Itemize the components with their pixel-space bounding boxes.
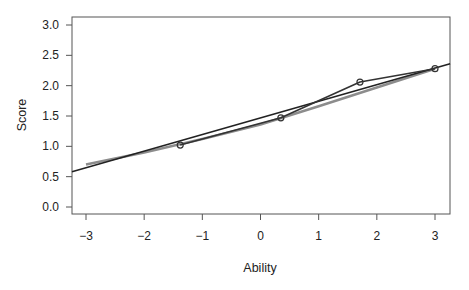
y-axis-title: Score — [15, 99, 29, 132]
y-tick-label: 2.5 — [42, 48, 59, 62]
y-tick-label: 2.0 — [42, 79, 59, 93]
y-tick-label: 1.0 — [42, 139, 59, 153]
x-tick-label: 1 — [315, 229, 322, 243]
x-tick-label: −2 — [137, 229, 151, 243]
y-tick-label: 0.5 — [42, 170, 59, 184]
y-tick-label: 3.0 — [42, 18, 59, 32]
y-tick-label: 1.5 — [42, 109, 59, 123]
y-axis: 0.00.51.01.52.02.53.0 — [42, 18, 72, 214]
x-tick-label: 3 — [432, 229, 439, 243]
plot-frame — [72, 17, 450, 214]
x-tick-label: 0 — [257, 229, 264, 243]
x-tick-label: −1 — [195, 229, 209, 243]
y-tick-label: 0.0 — [42, 200, 59, 214]
x-tick-label: −3 — [79, 229, 93, 243]
x-axis-title: Ability — [243, 261, 277, 275]
fitted-line — [72, 64, 450, 172]
chart: −3−2−10123 0.00.51.01.52.02.53.0 Ability… — [0, 0, 469, 290]
x-tick-label: 2 — [373, 229, 380, 243]
x-axis: −3−2−10123 — [79, 214, 439, 243]
